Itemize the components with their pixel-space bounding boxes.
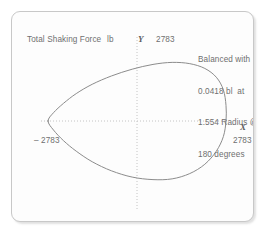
unit-label: lb	[107, 35, 114, 46]
x-min-tick-label: – 2783	[34, 136, 60, 147]
page-title: Total Shaking Force	[27, 35, 101, 46]
annotation-line: 180 degrees	[198, 150, 254, 161]
y-max-tick-label: 2783	[156, 35, 175, 46]
annotation-line: 0.0418 bl at	[198, 87, 254, 98]
balance-annotation: Balanced with 0.0418 bl at 1.554 Radius …	[198, 34, 254, 181]
y-axis-label: Y	[138, 34, 144, 44]
chart-frame: Total Shaking Force lb Y 2783 X 2783 – 2…	[11, 11, 254, 222]
annotation-line: Balanced with	[198, 55, 254, 66]
annotation-line: 1.554 Radius @	[198, 118, 254, 129]
